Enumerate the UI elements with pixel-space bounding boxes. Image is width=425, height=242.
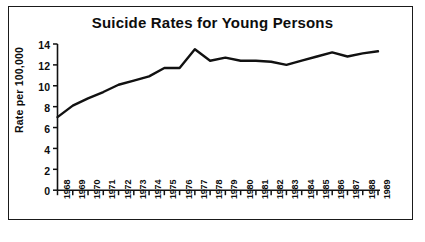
plot-area xyxy=(0,0,425,242)
data-series-line xyxy=(58,49,379,117)
chart-figure: Suicide Rates for Young Persons Rate per… xyxy=(0,0,425,242)
